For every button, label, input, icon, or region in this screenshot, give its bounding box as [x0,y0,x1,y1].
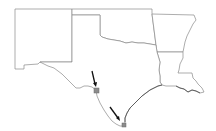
state-new-mexico [15,9,72,69]
location-marker-1[interactable] [94,88,99,93]
location-marker-2[interactable] [122,123,126,127]
map-canvas [0,0,216,131]
state-louisiana [157,52,204,93]
state-arkansas [152,14,196,52]
